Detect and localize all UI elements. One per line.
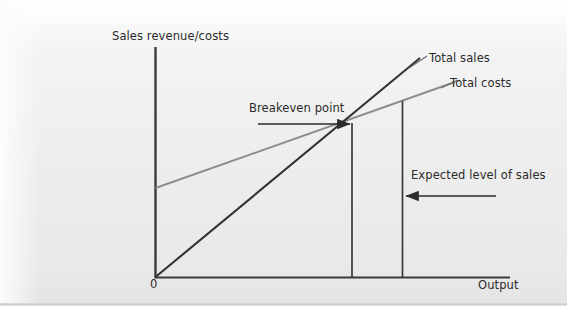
- total-sales-leader-line: [409, 56, 427, 68]
- x-axis-label: Output: [478, 278, 519, 292]
- scanned-page: Sales revenue/costs Total sales Total co…: [0, 0, 567, 333]
- y-axis-label: Sales revenue/costs: [112, 29, 229, 43]
- total-costs-label: Total costs: [450, 76, 511, 90]
- expected-level-of-sales-label: Expected level of sales: [411, 168, 546, 182]
- total-sales-line: [156, 58, 421, 277]
- origin-label: 0: [150, 277, 157, 291]
- breakeven-point-label: Breakeven point: [249, 101, 344, 115]
- total-sales-label: Total sales: [429, 51, 490, 65]
